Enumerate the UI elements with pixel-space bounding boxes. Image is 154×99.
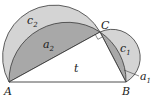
label-a1: a1 (140, 70, 151, 85)
label-t: t (74, 62, 79, 75)
label-point-a: A (3, 85, 12, 98)
label-point-c: C (101, 19, 110, 32)
label-point-b: B (121, 85, 130, 98)
lunes-diagram: c2 a2 c1 a1 t A B C (0, 0, 154, 99)
